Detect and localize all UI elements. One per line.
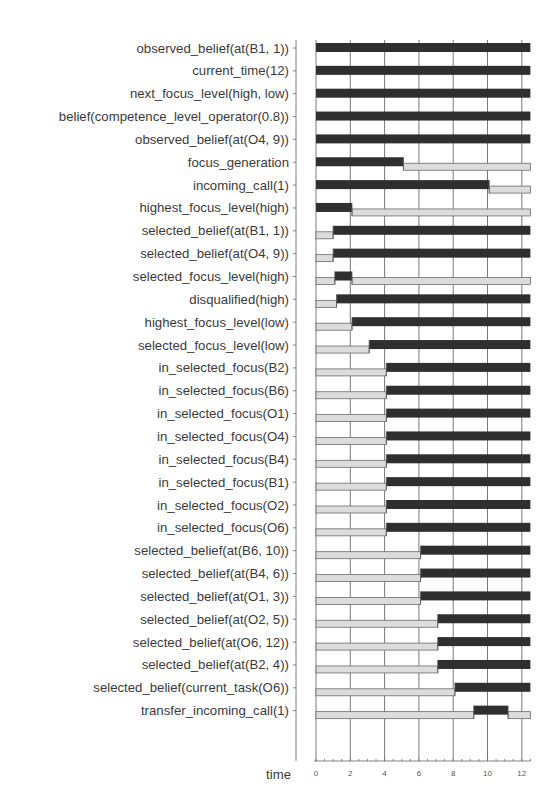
row-label: disqualified(high) bbox=[189, 292, 289, 307]
state-bar-false bbox=[316, 300, 337, 307]
state-bar-false bbox=[316, 666, 438, 673]
state-bar-true bbox=[386, 500, 530, 509]
state-bar-true bbox=[316, 157, 403, 166]
state-bar-true bbox=[335, 272, 352, 281]
state-bar-true bbox=[386, 409, 530, 418]
state-bar-false bbox=[508, 712, 530, 719]
state-bar-true bbox=[316, 203, 352, 212]
row-label: selected_focus_level(high) bbox=[133, 269, 289, 284]
figure-caption-cutoff bbox=[60, 778, 500, 784]
state-bar-true bbox=[316, 180, 489, 189]
row-label: selected_belief(at(O4, 9)) bbox=[140, 246, 289, 261]
state-bar-false bbox=[316, 460, 386, 467]
row-label: observed_belief(at(B1, 1)) bbox=[137, 41, 289, 56]
row-label: in_selected_focus(B2) bbox=[159, 360, 289, 375]
state-bar-false bbox=[316, 415, 386, 422]
row-label: selected_belief(at(B1, 1)) bbox=[142, 223, 289, 238]
state-bar-false bbox=[316, 346, 369, 353]
state-bar-false bbox=[352, 278, 530, 285]
state-bar-false bbox=[316, 437, 386, 444]
x-tick-label: 4 bbox=[382, 769, 387, 778]
row-label: transfer_incoming_call(1) bbox=[141, 703, 289, 718]
state-bar-true bbox=[438, 660, 531, 669]
state-bar-true bbox=[337, 294, 531, 303]
state-bar-true bbox=[421, 569, 531, 578]
state-bar-true bbox=[386, 431, 530, 440]
row-label: incoming_call(1) bbox=[193, 178, 289, 193]
state-bar-false bbox=[352, 209, 530, 216]
row-label: highest_focus_level(low) bbox=[145, 315, 289, 330]
state-bars bbox=[316, 43, 530, 719]
state-bar-false bbox=[316, 575, 421, 582]
state-bar-true bbox=[386, 363, 530, 372]
state-bar-false bbox=[489, 186, 530, 193]
row-label: selected_belief(at(O1, 3)) bbox=[140, 589, 289, 604]
row-label: highest_focus_level(high) bbox=[139, 200, 289, 215]
state-bar-true bbox=[421, 591, 531, 600]
state-bar-false bbox=[316, 323, 352, 330]
state-bar-true bbox=[474, 706, 508, 715]
state-bar-false bbox=[316, 529, 386, 536]
state-bar-false bbox=[316, 278, 335, 285]
state-bar-false bbox=[316, 620, 438, 627]
row-label: observed_belief(at(O4, 9)) bbox=[135, 132, 289, 147]
state-bar-true bbox=[386, 386, 530, 395]
state-bar-false bbox=[316, 689, 455, 696]
state-bar-true bbox=[352, 317, 530, 326]
state-bar-true bbox=[386, 477, 530, 486]
state-bar-true bbox=[316, 43, 530, 52]
x-tick-label: 2 bbox=[348, 769, 353, 778]
state-bar-false bbox=[316, 597, 421, 604]
state-bar-false bbox=[316, 483, 386, 490]
state-bar-true bbox=[316, 89, 530, 98]
state-bar-true bbox=[386, 523, 530, 532]
x-tick-label: 10 bbox=[483, 769, 492, 778]
state-bar-true bbox=[316, 134, 530, 143]
state-bar-true bbox=[333, 226, 530, 235]
row-label: current_time(12) bbox=[192, 63, 289, 78]
state-bar-true bbox=[421, 546, 531, 555]
state-bar-false bbox=[316, 392, 386, 399]
row-label: focus_generation bbox=[188, 155, 289, 170]
row-labels: observed_belief(at(B1, 1))current_time(1… bbox=[59, 41, 289, 719]
x-tick-label: 12 bbox=[517, 769, 526, 778]
row-label: selected_belief(at(B6, 10)) bbox=[134, 543, 289, 558]
state-bar-false bbox=[316, 506, 386, 513]
x-tick-label: 6 bbox=[417, 769, 422, 778]
row-label: selected_belief(current_task(O6)) bbox=[93, 680, 289, 695]
row-label: selected_belief(at(B4, 6)) bbox=[142, 566, 289, 581]
state-bar-false bbox=[316, 232, 333, 239]
row-label: selected_belief(at(O6, 12)) bbox=[133, 635, 289, 650]
state-bar-false bbox=[316, 712, 474, 719]
row-label: in_selected_focus(O2) bbox=[157, 498, 289, 513]
row-label: next_focus_level(high, low) bbox=[130, 86, 289, 101]
state-bar-true bbox=[316, 112, 530, 121]
state-bar-false bbox=[316, 255, 333, 262]
state-bar-false bbox=[316, 369, 386, 376]
row-label: in_selected_focus(O1) bbox=[157, 406, 289, 421]
row-label: in_selected_focus(B6) bbox=[159, 383, 289, 398]
row-label: in_selected_focus(B4) bbox=[159, 452, 289, 467]
state-bar-true bbox=[455, 683, 530, 692]
gridlines bbox=[316, 40, 522, 761]
state-bar-true bbox=[333, 249, 530, 258]
state-bar-true bbox=[386, 454, 530, 463]
row-label: selected_focus_level(low) bbox=[138, 338, 289, 353]
x-tick-label: 0 bbox=[314, 769, 319, 778]
row-label: selected_belief(at(O2, 5)) bbox=[140, 612, 289, 627]
row-label: in_selected_focus(O6) bbox=[157, 520, 289, 535]
state-bar-true bbox=[438, 637, 531, 646]
state-bar-false bbox=[403, 163, 530, 170]
row-label: in_selected_focus(B1) bbox=[159, 475, 289, 490]
state-bar-true bbox=[316, 66, 530, 75]
state-bar-false bbox=[316, 552, 421, 559]
state-bar-true bbox=[438, 614, 531, 623]
row-label: selected_belief(at(B2, 4)) bbox=[142, 657, 289, 672]
timeline-chart: observed_belief(at(B1, 1))current_time(1… bbox=[0, 0, 556, 791]
state-bar-false bbox=[316, 643, 438, 650]
row-label: in_selected_focus(O4) bbox=[157, 429, 289, 444]
state-bar-true bbox=[369, 340, 530, 349]
x-tick-label: 8 bbox=[451, 769, 456, 778]
row-label: belief(competence_level_operator(0.8)) bbox=[59, 109, 289, 124]
